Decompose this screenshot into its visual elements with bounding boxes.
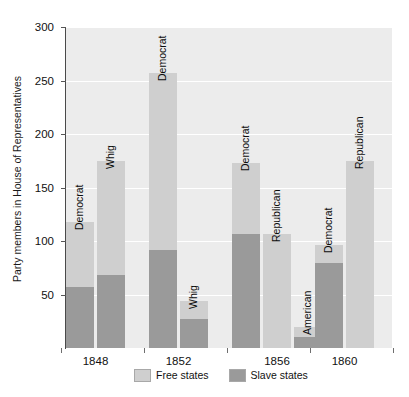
- x-axis-tick-mark: [393, 348, 394, 353]
- legend: Free statesSlave states: [134, 367, 322, 383]
- y-axis-tick-label: 100: [14, 236, 54, 246]
- gridline: [66, 134, 392, 135]
- x-axis-tick-label: 1852: [149, 355, 209, 367]
- gridline: [66, 27, 392, 28]
- bar-1856-democrat[interactable]: [232, 163, 260, 348]
- bar-segment-slave-states: [149, 250, 177, 348]
- x-axis-tick-label: 1860: [315, 355, 375, 367]
- bar-segment-slave-states: [232, 234, 260, 348]
- bar-segment-slave-states: [66, 287, 94, 348]
- bar-label-democrat: Democrat: [239, 125, 251, 171]
- bar-1852-democrat[interactable]: [149, 73, 177, 348]
- bar-label-whig: Whig: [187, 285, 199, 309]
- bar-1856-republican[interactable]: [263, 234, 291, 348]
- x-axis-tick-label: 1856: [247, 355, 307, 367]
- y-axis-tick-label: 150: [14, 183, 54, 193]
- y-axis-tick-label: 50: [14, 290, 54, 300]
- x-axis-tick-label: 1848: [66, 355, 126, 367]
- bar-label-republican: Republican: [270, 189, 282, 242]
- y-axis-tick-mark: [61, 81, 66, 82]
- y-axis-tick-label: 250: [14, 76, 54, 86]
- x-axis-tick-mark: [310, 348, 311, 353]
- bar-label-american: American: [301, 290, 313, 334]
- bar-segment-free-states: [346, 161, 374, 348]
- bar-1860-republican[interactable]: [346, 161, 374, 348]
- legend-swatch-icon: [229, 369, 246, 382]
- bar-label-democrat: Democrat: [156, 35, 168, 81]
- bar-label-republican: Republican: [353, 116, 365, 169]
- y-axis-tick-mark: [61, 188, 66, 189]
- y-axis-tick-mark: [61, 134, 66, 135]
- bar-label-democrat: Democrat: [322, 208, 334, 254]
- y-axis-tick-mark: [61, 27, 66, 28]
- plot-area: [66, 27, 392, 348]
- bar-1848-democrat[interactable]: [66, 222, 94, 348]
- bar-1860-democrat[interactable]: [315, 245, 343, 348]
- bar-chart: Party members in House of Representative…: [0, 0, 409, 397]
- legend-item-free-states[interactable]: Free states: [134, 369, 209, 382]
- bar-segment-slave-states: [315, 263, 343, 348]
- bar-label-democrat: Democrat: [73, 184, 85, 230]
- y-axis-tick-mark: [61, 241, 66, 242]
- legend-swatch-icon: [134, 369, 151, 382]
- bar-1848-whig[interactable]: [97, 161, 125, 348]
- bar-segment-slave-states: [180, 319, 208, 348]
- x-axis-tick-mark: [227, 348, 228, 353]
- y-axis-title: Party members in House of Representative…: [11, 29, 25, 329]
- y-axis-tick-label: 200: [14, 129, 54, 139]
- bar-label-whig: Whig: [104, 145, 116, 169]
- y-axis-tick-label: 300: [14, 22, 54, 32]
- legend-item-slave-states[interactable]: Slave states: [229, 369, 308, 382]
- x-axis-tick-mark: [144, 348, 145, 353]
- bar-segment-slave-states: [97, 275, 125, 348]
- legend-label: Slave states: [251, 369, 308, 381]
- gridline: [66, 81, 392, 82]
- bar-segment-free-states: [263, 234, 291, 348]
- y-axis-tick-mark: [61, 295, 66, 296]
- x-axis-tick-mark: [61, 348, 62, 353]
- legend-label: Free states: [156, 369, 209, 381]
